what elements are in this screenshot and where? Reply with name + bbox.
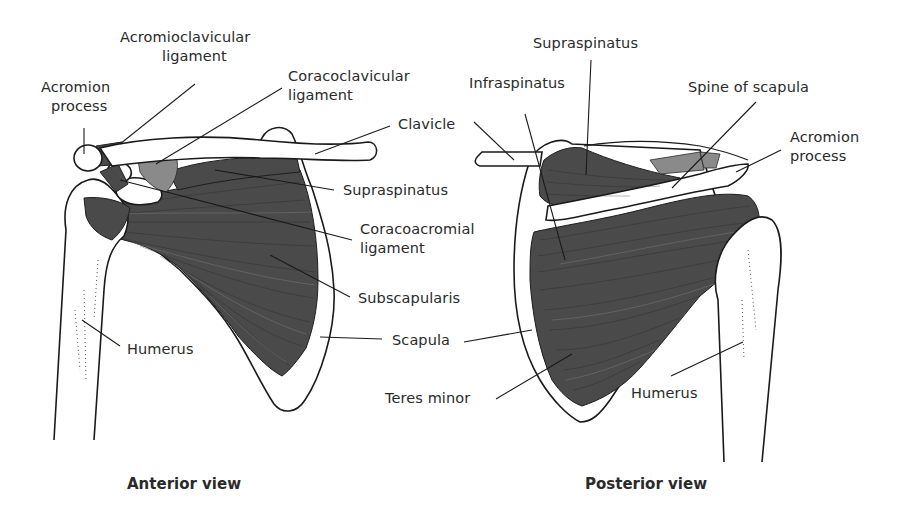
caption-anterior-view: Anterior view <box>127 475 241 493</box>
label-line: Acromion <box>41 78 110 97</box>
posterior-clavicle-bone <box>475 152 542 166</box>
label-acromion-process-posterior: Acromion process <box>790 128 859 166</box>
label-coracoacromial-ligament: Coracoacromial ligament <box>360 220 475 258</box>
label-line: ligament <box>120 47 250 66</box>
label-supraspinatus-anterior: Supraspinatus <box>343 181 448 200</box>
caption-posterior-view: Posterior view <box>585 475 707 493</box>
leader-acromion-posterior <box>736 150 781 172</box>
label-teres-minor: Teres minor <box>385 389 470 408</box>
label-supraspinatus-posterior: Supraspinatus <box>533 34 638 53</box>
label-humerus-posterior: Humerus <box>631 384 698 403</box>
label-line: Coracoclavicular <box>288 67 410 86</box>
anterior-view-illustration <box>54 128 377 440</box>
label-line: process <box>41 97 110 116</box>
label-line: Acromioclavicular <box>120 28 250 47</box>
leader-acromioclavicular <box>120 84 195 144</box>
label-line: ligament <box>360 239 475 258</box>
label-line: Coracoacromial <box>360 220 475 239</box>
label-scapula: Scapula <box>392 331 450 350</box>
rotator-cuff-diagram: Acromioclavicular ligament Acromion proc… <box>0 0 921 517</box>
label-humerus-anterior: Humerus <box>127 340 194 359</box>
label-clavicle: Clavicle <box>398 115 455 134</box>
label-line: Acromion <box>790 128 859 147</box>
label-spine-of-scapula: Spine of scapula <box>688 78 809 97</box>
label-infraspinatus: Infraspinatus <box>469 74 565 93</box>
label-subscapularis: Subscapularis <box>358 289 460 308</box>
label-acromioclavicular-ligament: Acromioclavicular ligament <box>120 28 250 66</box>
anterior-acromion-bone <box>74 145 102 171</box>
label-line: ligament <box>288 86 410 105</box>
posterior-view-illustration <box>475 141 781 462</box>
posterior-humerus-bone <box>715 217 781 462</box>
label-line: process <box>790 147 859 166</box>
label-acromion-process-anterior: Acromion process <box>41 78 110 116</box>
label-coracoclavicular-ligament: Coracoclavicular ligament <box>288 67 410 105</box>
